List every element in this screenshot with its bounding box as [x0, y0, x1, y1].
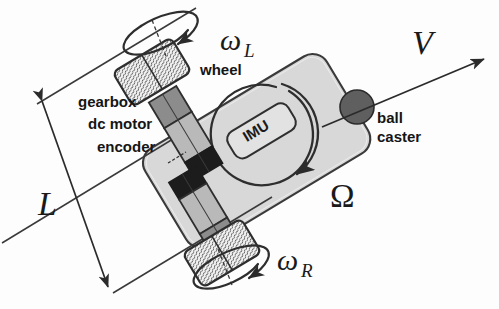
figure-canvas: IMU	[0, 0, 499, 309]
omega-left-subscript: L	[243, 40, 255, 61]
dc-motor-label: dc motor	[88, 115, 152, 132]
ball-label: ball	[377, 109, 403, 126]
gearbox-label: gearbox	[78, 93, 137, 110]
velocity-symbol: V	[412, 24, 437, 61]
omega-right-subscript: R	[300, 260, 313, 281]
left-wheel-spin-arrow	[124, 12, 198, 55]
wheel-label: wheel	[199, 61, 242, 78]
caster-label: caster	[377, 128, 421, 145]
omega-right-symbol: ω	[277, 243, 298, 276]
encoder-label: encoder	[97, 138, 156, 155]
body-rotation-symbol: Ω	[330, 178, 355, 214]
omega-left-symbol: ω	[220, 23, 241, 56]
robot-schematic-svg: IMU	[0, 0, 499, 309]
wheelbase-symbol: L	[37, 185, 57, 222]
